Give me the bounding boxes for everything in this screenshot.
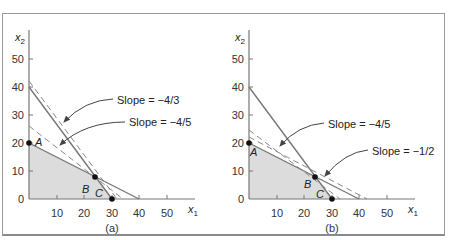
callout-arrow [325, 150, 368, 176]
x-tick: 40 [133, 207, 145, 219]
y-tick: 40 [12, 81, 24, 93]
x-tick: 50 [161, 207, 173, 219]
callout-arrow [280, 123, 324, 146]
point-c [109, 196, 115, 202]
lp-figure: 10 20 30 40 50 0 10 20 30 40 50 x2 x1 A … [0, 0, 449, 240]
point-label-a: A [249, 146, 257, 158]
point-b [312, 174, 318, 180]
y-tick: 0 [18, 193, 24, 205]
x-tick: 50 [381, 207, 393, 219]
y-axis-label: x2 [234, 31, 246, 46]
y-tick: 30 [12, 109, 24, 121]
y-tick: 50 [232, 53, 244, 65]
panel-b: 10 20 30 40 50 0 10 20 30 40 50 x2 x1 A … [232, 30, 435, 234]
point-label-c: C [95, 187, 103, 199]
callout-arrow [64, 99, 113, 122]
y-tick: 40 [232, 81, 244, 93]
point-a [246, 140, 252, 146]
x-tick: 20 [78, 207, 90, 219]
point-label-b: B [304, 178, 311, 190]
slope-annotation: Slope = −1/2 [372, 145, 434, 157]
x-tick: 20 [298, 207, 310, 219]
slope-annotation: Slope = −4/3 [117, 94, 179, 106]
panel-caption: (b) [325, 222, 338, 234]
y-tick: 20 [232, 137, 244, 149]
y-tick: 50 [12, 53, 24, 65]
x-tick: 30 [326, 207, 338, 219]
panel-a: 10 20 30 40 50 0 10 20 30 40 50 x2 x1 A … [12, 30, 199, 234]
x-tick: 10 [51, 207, 63, 219]
y-tick: 0 [238, 193, 244, 205]
slope-annotation: Slope = −4/5 [328, 118, 390, 130]
point-c [329, 196, 335, 202]
panel-caption: (a) [105, 222, 118, 234]
x-tick: 30 [106, 207, 118, 219]
point-label-c: C [316, 188, 324, 200]
x-tick: 40 [353, 207, 365, 219]
x-axis-label: x1 [407, 203, 419, 218]
y-axis-label: x2 [14, 31, 26, 46]
y-tick: 20 [12, 137, 24, 149]
point-label-a: A [34, 136, 42, 148]
y-tick: 30 [232, 109, 244, 121]
point-a [26, 140, 32, 146]
x-axis-label: x1 [187, 203, 199, 218]
point-label-b: B [82, 183, 89, 195]
slope-annotation: Slope = −4/5 [129, 116, 191, 128]
x-tick: 10 [271, 207, 283, 219]
point-b [92, 174, 98, 180]
y-tick: 10 [12, 165, 24, 177]
y-tick: 10 [232, 165, 244, 177]
